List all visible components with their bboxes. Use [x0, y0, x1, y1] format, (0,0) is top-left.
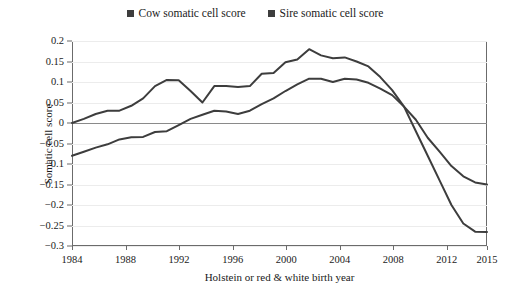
y-tick-label: 0.15 — [46, 56, 64, 67]
series-lines — [72, 41, 487, 246]
series-line — [72, 49, 487, 232]
x-tick-label: 2008 — [383, 255, 404, 266]
y-tick-label: −0.2 — [45, 200, 64, 211]
x-tick-label: 1984 — [62, 255, 83, 266]
series-line — [72, 79, 487, 185]
legend-swatch-sire — [268, 10, 275, 17]
x-tick-mark — [286, 246, 287, 250]
x-tick-label: 1996 — [222, 255, 243, 266]
legend-swatch-cow — [127, 10, 134, 17]
x-tick-label: 2004 — [329, 255, 350, 266]
x-tick-mark — [393, 246, 394, 250]
x-tick-mark — [233, 246, 234, 250]
x-tick-mark — [447, 246, 448, 250]
y-tick-label: −0.25 — [40, 220, 64, 231]
y-axis-ticks: 0.20.150.10.050−0.05−0.1−0.15−0.2−0.25−0… — [0, 41, 72, 246]
x-tick-mark — [179, 246, 180, 250]
y-tick-label: −0.1 — [45, 159, 64, 170]
x-tick-label: 2000 — [276, 255, 297, 266]
x-tick-mark — [126, 246, 127, 250]
x-tick-mark — [72, 246, 73, 250]
x-tick-mark — [340, 246, 341, 250]
x-tick-mark — [487, 246, 488, 250]
x-tick-label: 1988 — [115, 255, 136, 266]
y-tick-label: −0.3 — [45, 241, 64, 252]
y-tick-label: 0.1 — [51, 77, 64, 88]
x-tick-label: 2015 — [477, 255, 498, 266]
x-tick-label: 1992 — [169, 255, 190, 266]
y-tick-label: −0.05 — [40, 138, 64, 149]
y-tick-label: 0.2 — [51, 36, 64, 47]
legend-item-sire[interactable]: Sire somatic cell score — [268, 8, 384, 20]
y-tick-label: −0.15 — [40, 179, 64, 190]
y-tick-label: 0 — [59, 118, 64, 129]
x-axis-title: Holstein or red & white birth year — [72, 271, 487, 283]
legend-item-cow[interactable]: Cow somatic cell score — [127, 8, 246, 20]
chart-figure: Cow somatic cell score Sire somatic cell… — [0, 0, 510, 294]
legend-label-sire: Sire somatic cell score — [280, 8, 384, 20]
x-tick-label: 2012 — [436, 255, 457, 266]
legend-label-cow: Cow somatic cell score — [139, 8, 246, 20]
chart-legend: Cow somatic cell score Sire somatic cell… — [0, 8, 510, 20]
y-tick-label: 0.05 — [46, 97, 64, 108]
plot-area — [72, 41, 487, 246]
